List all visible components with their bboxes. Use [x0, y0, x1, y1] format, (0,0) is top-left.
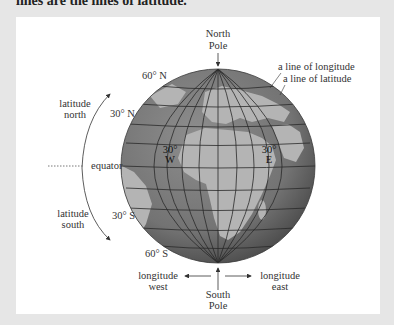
- svg-text:a line of longitude: a line of longitude: [278, 61, 355, 72]
- svg-text:longitude: longitude: [138, 270, 178, 281]
- svg-text:E: E: [266, 154, 272, 165]
- svg-text:latitude: latitude: [59, 98, 91, 109]
- svg-text:equator: equator: [91, 160, 123, 171]
- svg-text:east: east: [272, 281, 288, 292]
- svg-text:South: South: [206, 289, 231, 300]
- svg-text:north: north: [64, 109, 87, 120]
- top-text: lines are the lines of latitude.: [16, 0, 187, 9]
- north-pole-label: North Pole: [206, 28, 231, 66]
- longitude-west-label: longitude west: [138, 270, 211, 292]
- diagram-card: North Pole a line of longitude a line of…: [16, 17, 380, 314]
- longitude-east-label: longitude east: [225, 270, 300, 292]
- lat-60n-label: 60° N: [142, 70, 167, 81]
- svg-text:Pole: Pole: [209, 40, 228, 51]
- svg-text:south: south: [62, 219, 86, 230]
- equator-label: equator: [48, 160, 123, 171]
- svg-text:latitude: latitude: [57, 208, 89, 219]
- globe-diagram: North Pole a line of longitude a line of…: [16, 17, 380, 314]
- line-labels: a line of longitude a line of latitude: [270, 61, 355, 95]
- svg-text:west: west: [148, 281, 167, 292]
- svg-text:W: W: [165, 154, 175, 165]
- latitude-south-label: latitude south: [57, 208, 89, 230]
- lat-30s-label: 30° S: [112, 210, 135, 221]
- south-pole-label: South Pole: [206, 268, 231, 311]
- svg-text:a line of latitude: a line of latitude: [283, 73, 352, 84]
- latitude-north-label: latitude north: [59, 98, 91, 120]
- lat-30n-label: 30° N: [110, 108, 135, 119]
- svg-text:longitude: longitude: [260, 270, 300, 281]
- globe: [121, 69, 315, 263]
- svg-text:Pole: Pole: [209, 300, 228, 311]
- svg-text:North: North: [206, 28, 231, 39]
- lat-60s-label: 60° S: [145, 248, 168, 259]
